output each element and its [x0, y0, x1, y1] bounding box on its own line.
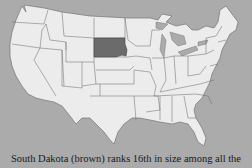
map-caption: South Dakota (brown) ranks 16th in size … — [0, 153, 252, 164]
south-dakota-highlight — [94, 38, 127, 57]
us-map — [0, 0, 252, 156]
us-landmass — [10, 5, 238, 146]
